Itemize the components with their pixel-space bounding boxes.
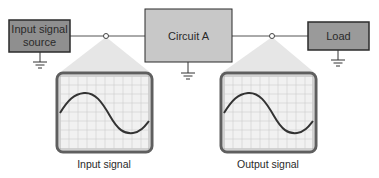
input-signal-caption: Input signal	[77, 158, 131, 170]
ground-icon	[331, 50, 345, 66]
output-probe-beam	[220, 37, 316, 74]
input-signal-scope	[57, 73, 152, 152]
circuit-diagram: Input signal source Circuit A Load	[0, 0, 379, 178]
output-signal-scope	[221, 73, 316, 152]
input-signal-source-block: Input signal source	[9, 20, 70, 52]
output-probe-node	[270, 34, 275, 39]
load-block: Load	[308, 22, 369, 50]
input-probe-beam	[58, 37, 152, 74]
ground-icon	[33, 52, 47, 68]
source-label-line2: source	[23, 36, 56, 48]
load-label: Load	[326, 30, 350, 42]
source-label-line1: Input signal	[11, 23, 67, 35]
ground-icon	[181, 62, 195, 79]
circuit-a-label: Circuit A	[168, 30, 210, 42]
output-signal-caption: Output signal	[237, 158, 299, 170]
circuit-a-block: Circuit A	[145, 9, 232, 62]
input-probe-node	[104, 34, 109, 39]
